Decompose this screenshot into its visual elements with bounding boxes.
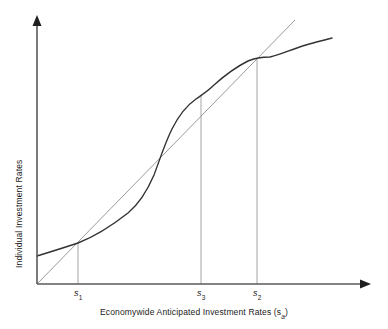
tick-label-s2-sub: 2 [258,294,262,301]
tick-label-s2-base: s [253,288,258,298]
tick-label-s1-base: s [74,288,79,298]
tick-label-s3: s3 [197,288,205,300]
individual-response-curve [37,38,332,256]
x-axis-title-subscript: a [281,313,285,320]
x-axis-title: Economywide Anticipated Investment Rates… [0,307,388,319]
tick-label-s3-sub: 3 [202,294,206,301]
tick-label-s2: s2 [253,288,261,300]
x-axis-arrow-icon [360,280,371,289]
x-axis-title-tail: ) [285,307,288,317]
x-axis-title-main: Economywide Anticipated Investment Rates… [100,307,281,317]
y-axis-arrow-icon [33,15,42,26]
tick-label-s1: s1 [74,288,82,300]
chart-canvas [0,0,388,329]
y-axis-title: Individual Investment Rates [14,28,24,268]
tick-label-s1-sub: 1 [79,294,83,301]
tick-label-s3-base: s [197,288,202,298]
figure-container: Individual Investment Rates Economywide … [0,0,388,329]
